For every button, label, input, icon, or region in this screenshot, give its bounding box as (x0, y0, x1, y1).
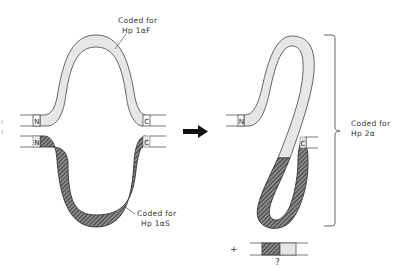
byproduct-segment: + ? (230, 243, 308, 267)
gene-u-dark (40, 136, 146, 227)
label-coded-for: Coded for (118, 16, 158, 25)
gene-hp1as: N C Coded for Hp 1αS (20, 136, 177, 228)
hatched-segment (262, 243, 280, 255)
plus-sign: + (230, 244, 238, 254)
c-terminus-label: C (144, 118, 149, 126)
right-arrow-icon (183, 125, 208, 138)
n-terminus-label: N (34, 118, 39, 126)
question-mark: ? (275, 257, 280, 267)
n-terminus-label: N (239, 118, 244, 126)
label-hp1af: Hp 1αF (122, 26, 151, 35)
gene-hp1af: N C Coded for Hp 1αF (20, 16, 166, 126)
right-curly-bracket (324, 35, 340, 226)
haptoglobin-gene-fusion-diagram: N C Coded for Hp 1αF N C Coded for Hp 1α… (0, 0, 404, 268)
c-terminus-label: C (144, 139, 149, 147)
label-hp1as: Hp 1αS (141, 219, 170, 228)
gene-arch-light (40, 35, 146, 126)
label-coded-for: Coded for (351, 119, 391, 128)
label-hp2a: Hp 2α (351, 129, 375, 138)
gene-hp2a: N C (226, 36, 318, 228)
label-coded-for: Coded for (137, 209, 177, 218)
n-terminus-label: N (34, 139, 39, 147)
light-segment (280, 243, 296, 255)
label-leader-line (124, 206, 135, 214)
label-leader-line (115, 34, 126, 49)
c-terminus-label: C (301, 140, 306, 148)
